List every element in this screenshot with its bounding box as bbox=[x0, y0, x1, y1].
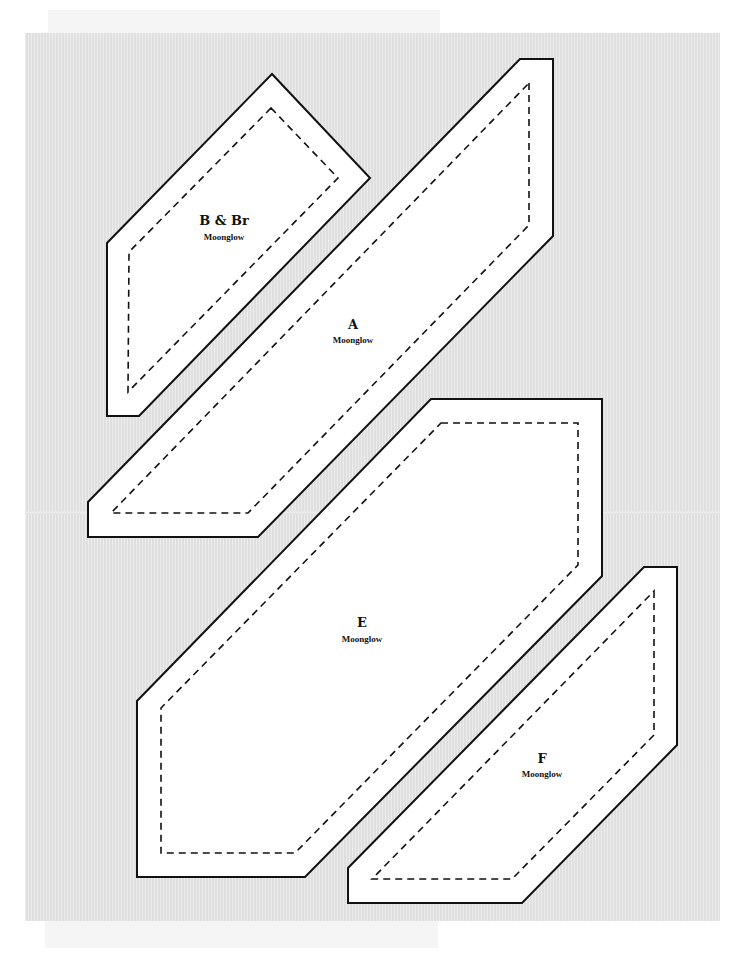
piece-f-fabric: Moonglow bbox=[522, 770, 563, 779]
piece-e-fabric: Moonglow bbox=[342, 635, 383, 644]
piece-b-br-fabric: Moonglow bbox=[204, 233, 245, 242]
piece-a-label: A bbox=[348, 318, 358, 331]
piece-e-label: E bbox=[357, 616, 367, 629]
piece-b-br-label: B & Br bbox=[199, 214, 249, 227]
template-pieces bbox=[0, 0, 749, 955]
piece-a-fabric: Moonglow bbox=[333, 336, 374, 345]
piece-f-label: F bbox=[537, 752, 546, 765]
pattern-page: B & Br Moonglow A Moonglow E Moonglow F … bbox=[0, 0, 749, 955]
